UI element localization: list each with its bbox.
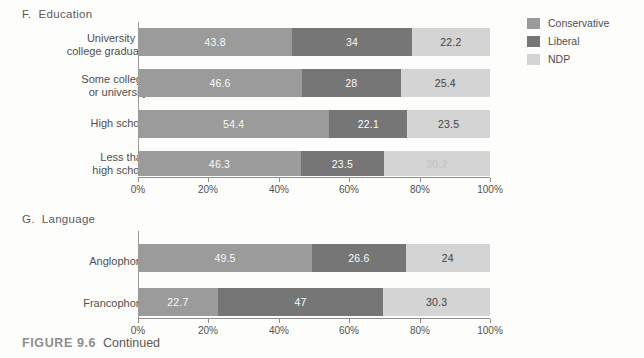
education-value-liberal-0: 34 [346, 36, 358, 48]
language-tick-label-5: 100% [477, 325, 503, 336]
education-tick-label-2: 40% [269, 184, 289, 195]
language-tick-0 [138, 319, 139, 323]
legend-swatch-conservative-icon [527, 18, 540, 29]
education-category-label-1: Some college or university [0, 73, 148, 99]
education-segment-liberal-2: 22.1 [329, 110, 407, 138]
education-bar-row-2: 54.4 22.1 23.5 [138, 110, 490, 138]
education-segment-liberal-0: 34 [292, 28, 412, 56]
figure-caption: FIGURE 9.6Continued [22, 336, 160, 350]
panel-name-education: Education [39, 8, 93, 20]
education-value-conservative-0: 43.8 [204, 36, 225, 48]
language-segment-conservative-1: 22.7 [138, 288, 218, 316]
language-segment-liberal-0: 26.6 [312, 244, 406, 272]
education-tick-label-5: 100% [477, 184, 503, 195]
language-value-ndp-1: 30.3 [426, 296, 447, 308]
language-value-ndp-0: 24 [442, 252, 454, 264]
education-tick-label-1: 20% [198, 184, 218, 195]
language-tick-label-2: 40% [269, 325, 289, 336]
legend-item-conservative: Conservative [527, 14, 609, 32]
education-tick-3 [349, 178, 350, 182]
education-tick-0 [138, 178, 139, 182]
language-value-conservative-0: 49.5 [214, 252, 235, 264]
panel-letter-education: F. [22, 8, 32, 20]
language-tick-label-3: 60% [339, 325, 359, 336]
language-segment-ndp-1: 30.3 [383, 288, 490, 316]
education-value-ndp-2: 23.5 [438, 118, 459, 130]
legend-label-conservative: Conservative [548, 17, 609, 29]
legend-swatch-liberal-icon [527, 36, 540, 47]
education-tick-5 [490, 178, 491, 182]
language-tick-label-1: 20% [198, 325, 218, 336]
education-segment-conservative-0: 43.8 [138, 28, 292, 56]
education-segment-conservative-1: 46.6 [138, 69, 302, 97]
education-segment-ndp-2: 23.5 [407, 110, 490, 138]
language-tick-1 [208, 319, 209, 323]
language-bar-row-0: 49.5 26.6 24 [138, 244, 490, 272]
education-category-label-0: University or college graduate [0, 32, 148, 58]
education-value-ndp-3: 30.2 [426, 158, 447, 170]
education-segment-conservative-2: 54.4 [138, 110, 329, 138]
education-value-liberal-3: 23.5 [332, 158, 353, 170]
education-segment-ndp-1: 25.4 [401, 69, 490, 97]
language-tick-5 [490, 319, 491, 323]
education-x-axis-line [138, 177, 490, 178]
education-segment-liberal-1: 28 [302, 69, 401, 97]
education-tick-label-3: 60% [339, 184, 359, 195]
education-value-liberal-2: 22.1 [358, 118, 379, 130]
language-segment-conservative-0: 49.5 [138, 244, 312, 272]
education-tick-1 [208, 178, 209, 182]
education-segment-conservative-3: 46.3 [138, 151, 301, 176]
language-bar-row-1: 22.7 47 30.3 [138, 288, 490, 316]
education-value-ndp-1: 25.4 [435, 77, 456, 89]
legend-item-liberal: Liberal [527, 32, 609, 50]
figure-caption-text: Continued [103, 336, 160, 350]
legend-label-ndp: NDP [548, 53, 570, 65]
panel-title-education: F.Education [22, 8, 92, 20]
education-value-conservative-2: 54.4 [223, 118, 244, 130]
panel-letter-language: G. [22, 213, 35, 225]
legend-item-ndp: NDP [527, 50, 609, 68]
language-tick-label-4: 80% [410, 325, 430, 336]
panel-title-language: G.Language [22, 213, 95, 225]
language-tick-2 [279, 319, 280, 323]
language-segment-ndp-0: 24 [406, 244, 490, 272]
education-category-label-3: Less than high school [0, 151, 148, 177]
education-bar-row-1: 46.6 28 25.4 [138, 69, 490, 97]
legend: Conservative Liberal NDP [527, 14, 609, 68]
education-bar-row-3: 46.3 23.5 30.2 [138, 151, 490, 176]
language-x-axis-line [138, 318, 490, 319]
education-tick-label-4: 80% [410, 184, 430, 195]
education-segment-liberal-3: 23.5 [301, 151, 384, 176]
education-bar-row-0: 43.8 34 22.2 [138, 28, 490, 56]
language-value-liberal-1: 47 [295, 296, 307, 308]
language-tick-label-0: 0% [131, 325, 145, 336]
legend-swatch-ndp-icon [527, 54, 540, 65]
education-tick-2 [279, 178, 280, 182]
language-segment-liberal-1: 47 [218, 288, 383, 316]
language-tick-3 [349, 319, 350, 323]
education-tick-label-0: 0% [131, 184, 145, 195]
education-segment-ndp-3: 30.2 [384, 151, 490, 176]
education-value-conservative-3: 46.3 [209, 158, 230, 170]
language-value-conservative-1: 22.7 [167, 296, 188, 308]
education-segment-ndp-0: 22.2 [412, 28, 490, 56]
panel-name-language: Language [42, 213, 96, 225]
education-value-liberal-1: 28 [345, 77, 357, 89]
language-category-label-1: Francophone [0, 297, 148, 310]
education-tick-4 [420, 178, 421, 182]
language-category-label-0: Anglophone [0, 255, 148, 268]
legend-label-liberal: Liberal [548, 35, 580, 47]
education-value-ndp-0: 22.2 [440, 36, 461, 48]
education-value-conservative-1: 46.6 [209, 77, 230, 89]
education-category-label-2: High school [0, 117, 148, 130]
language-tick-4 [420, 319, 421, 323]
figure-caption-label: FIGURE 9.6 [22, 336, 96, 350]
figure-page: F.Education University or college gradua… [0, 0, 644, 358]
language-value-liberal-0: 26.6 [348, 252, 369, 264]
